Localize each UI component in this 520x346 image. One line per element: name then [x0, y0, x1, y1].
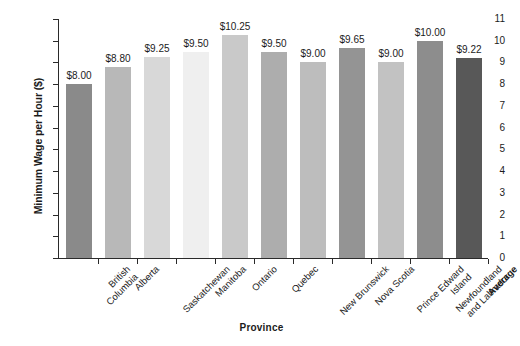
x-axis-tick [410, 259, 411, 264]
bar[interactable] [300, 62, 326, 258]
x-axis-tick [176, 259, 177, 264]
bar[interactable] [456, 58, 482, 258]
bar-value-label: $8.00 [51, 70, 107, 81]
x-axis-category-label: Quebec [290, 264, 321, 295]
x-axis-tick [332, 259, 333, 264]
bar[interactable] [222, 35, 248, 258]
x-axis-category-label-line: Quebec [290, 264, 321, 295]
y-axis-title: Minimum Wage per Hour ($) [32, 46, 44, 246]
bar-value-label: $9.50 [168, 38, 224, 49]
bar[interactable] [144, 57, 170, 258]
x-axis-category-label-line: Ontario [250, 264, 279, 293]
bar[interactable] [261, 52, 287, 258]
bar-value-label: $9.00 [285, 48, 341, 59]
x-axis-tick [488, 259, 489, 264]
x-axis-category-label: Ontario [250, 264, 279, 293]
x-axis-title-text: Province [240, 322, 284, 333]
bar-value-label: $9.65 [324, 34, 380, 45]
x-axis-category-label-line: Alberta [133, 264, 162, 293]
bar[interactable] [183, 52, 209, 258]
x-axis-tick [98, 259, 99, 264]
bar[interactable] [378, 62, 404, 258]
bar[interactable] [66, 84, 92, 258]
y-axis-tick [53, 258, 59, 259]
bar-value-label: $10.25 [207, 21, 263, 32]
bar-value-label: $8.80 [90, 53, 146, 64]
bar[interactable] [339, 48, 365, 258]
bar-value-label: $10.00 [402, 27, 458, 38]
bar[interactable] [105, 67, 131, 258]
x-axis-category-label: Alberta [133, 264, 162, 293]
x-axis-tick [371, 259, 372, 264]
bar[interactable] [417, 41, 443, 258]
x-axis-line [58, 258, 488, 259]
x-axis-tick [215, 259, 216, 264]
x-axis-tick [449, 259, 450, 264]
x-axis-tick [293, 259, 294, 264]
x-axis-title: Province [0, 322, 505, 333]
bar-value-label: $9.22 [441, 44, 497, 55]
x-axis-tick [254, 259, 255, 264]
x-axis-tick [137, 259, 138, 264]
bar-value-label: $9.00 [363, 48, 419, 59]
